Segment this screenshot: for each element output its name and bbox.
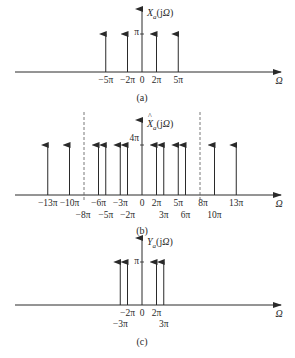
impulse-label: 2π bbox=[152, 75, 162, 85]
impulse-label: −5π bbox=[98, 210, 113, 220]
caption-a: (a) bbox=[136, 92, 147, 104]
magnitude-axis-label: Ya(jΩ) bbox=[147, 236, 173, 250]
cutoff-label: 8π bbox=[198, 198, 208, 208]
panel-a: ΩXa(jΩ)π0−5π−2π2π5π bbox=[15, 7, 283, 86]
cutoff-label: −8π bbox=[76, 210, 91, 220]
amplitude-label: π bbox=[134, 27, 139, 37]
origin-label: 0 bbox=[140, 198, 145, 208]
impulse-label: −2π bbox=[120, 308, 135, 318]
impulse-label: 2π bbox=[152, 308, 162, 318]
impulse-label: 3π bbox=[159, 210, 169, 220]
impulse-label: 5π bbox=[173, 75, 183, 85]
impulse-label: 10π bbox=[207, 210, 222, 220]
impulse-label: 5π bbox=[173, 198, 183, 208]
omega-axis-label: Ω bbox=[275, 75, 282, 86]
impulse-label: −3π bbox=[113, 319, 128, 329]
amplitude-label: 4π bbox=[129, 133, 139, 143]
omega-axis-label: Ω bbox=[275, 198, 282, 209]
impulse-label: −5π bbox=[98, 75, 113, 85]
caption-c: (c) bbox=[136, 336, 147, 348]
impulse-label: −6π bbox=[91, 198, 106, 208]
caption-b: (b) bbox=[136, 225, 148, 237]
impulse-label: −3π bbox=[113, 198, 128, 208]
omega-axis-label: Ω bbox=[275, 308, 282, 319]
impulse-label: 6π bbox=[181, 210, 191, 220]
panel-b: ΩXa(jΩ)^4π0−13π−10π−6π−5π−3π−2π2π3π5π6π1… bbox=[15, 112, 283, 220]
impulse-label: 3π bbox=[159, 319, 169, 329]
magnitude-axis-label: Xa(jΩ) bbox=[146, 7, 173, 21]
impulse-label: 2π bbox=[152, 198, 162, 208]
panel-c: ΩYa(jΩ)π0−3π−2π2π3π bbox=[15, 236, 283, 329]
impulse-label: −2π bbox=[120, 210, 135, 220]
impulse-label: −2π bbox=[120, 75, 135, 85]
origin-label: 0 bbox=[140, 308, 145, 318]
impulse-label: −13π bbox=[38, 198, 58, 208]
impulse-label: −10π bbox=[60, 198, 80, 208]
origin-label: 0 bbox=[140, 75, 145, 85]
hat-accent: ^ bbox=[148, 112, 152, 121]
impulse-label: 13π bbox=[229, 198, 244, 208]
spectrum-figure: ΩXa(jΩ)π0−5π−2π2π5π ΩXa(jΩ)^4π0−13π−10π−… bbox=[0, 0, 295, 358]
amplitude-label: π bbox=[134, 256, 139, 266]
